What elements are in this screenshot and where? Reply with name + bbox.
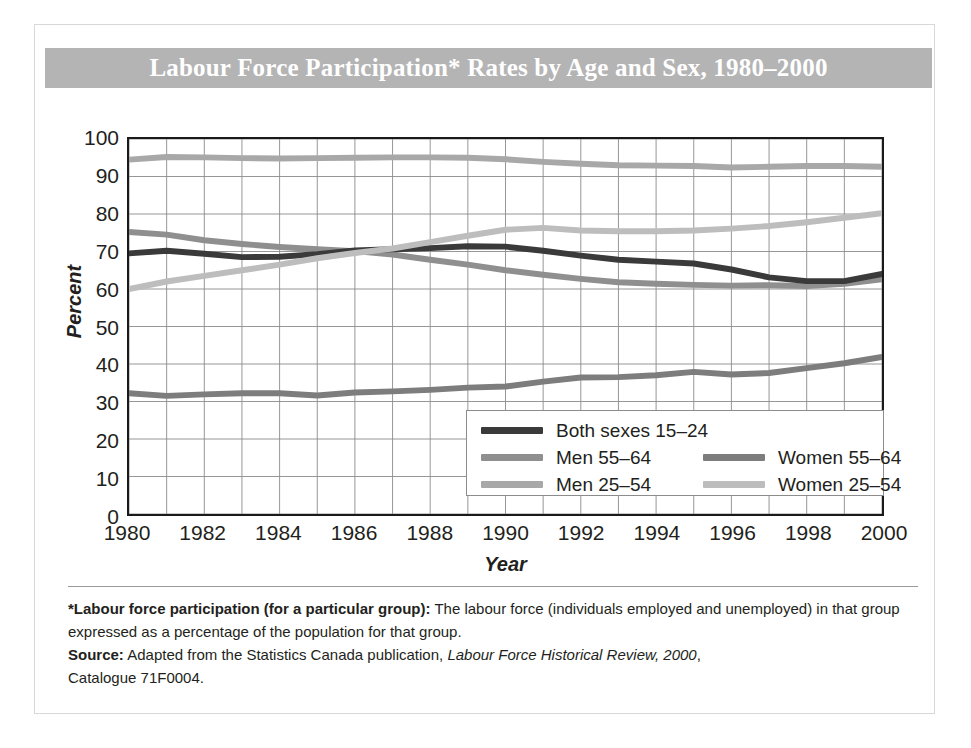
footnote-source-text: Adapted from the Statistics Canada publi…: [124, 646, 448, 663]
y-tick-90: 90: [59, 165, 119, 186]
footnote-publication-title: Labour Force Historical Review, 2000: [447, 646, 696, 663]
footnote-source-label: Source:: [68, 646, 124, 663]
footnote-catalogue: Catalogue 71F0004.: [68, 666, 920, 689]
footnote-definition: *Labour force participation (for a parti…: [68, 597, 920, 643]
x-tick-1980: 1980: [97, 522, 157, 543]
x-tick-1990: 1990: [476, 522, 536, 543]
y-tick-40: 40: [59, 354, 119, 375]
legend-label: Women 25–54: [778, 475, 901, 494]
y-axis-tick-labels: 1009080706050403020100: [53, 137, 119, 516]
legend-swatch: [481, 427, 543, 434]
x-tick-1984: 1984: [248, 522, 308, 543]
footnote-definition-term: *Labour force participation (for a parti…: [68, 600, 431, 617]
x-tick-1988: 1988: [400, 522, 460, 543]
x-tick-1998: 1998: [778, 522, 838, 543]
y-tick-60: 60: [59, 279, 119, 300]
footnote-source: Source: Adapted from the Statistics Cana…: [68, 643, 920, 666]
chart-legend: Both sexes 15–24Men 55–64Men 25–54Women …: [466, 410, 884, 496]
legend-swatch: [481, 454, 543, 461]
y-tick-20: 20: [59, 430, 119, 451]
x-axis-title: Year: [127, 553, 884, 576]
x-tick-2000: 2000: [854, 522, 914, 543]
legend-item: Both sexes 15–24: [481, 417, 708, 443]
legend-swatch: [703, 481, 765, 488]
footnote-source-tail: ,: [697, 646, 701, 663]
legend-item: Men 25–54: [481, 471, 651, 497]
x-axis-tick-labels: 1980198219841986198819901992199419961998…: [127, 522, 884, 550]
legend-item: Women 25–54: [703, 471, 901, 497]
x-tick-1996: 1996: [703, 522, 763, 543]
y-tick-100: 100: [59, 127, 119, 148]
legend-label: Men 55–64: [556, 448, 651, 467]
legend-item: Men 55–64: [481, 444, 651, 470]
footnote: *Labour force participation (for a parti…: [68, 597, 920, 689]
legend-label: Women 55–64: [778, 448, 901, 467]
y-tick-10: 10: [59, 468, 119, 489]
y-tick-30: 30: [59, 392, 119, 413]
legend-swatch: [703, 454, 765, 461]
x-tick-1992: 1992: [551, 522, 611, 543]
y-tick-70: 70: [59, 241, 119, 262]
y-tick-80: 80: [59, 203, 119, 224]
footnote-divider: [68, 586, 918, 587]
x-tick-1982: 1982: [173, 522, 233, 543]
legend-label: Men 25–54: [556, 475, 651, 494]
x-tick-1986: 1986: [324, 522, 384, 543]
legend-label: Both sexes 15–24: [556, 421, 708, 440]
legend-item: Women 55–64: [703, 444, 901, 470]
x-tick-1994: 1994: [627, 522, 687, 543]
legend-swatch: [481, 481, 543, 488]
y-tick-50: 50: [59, 317, 119, 338]
